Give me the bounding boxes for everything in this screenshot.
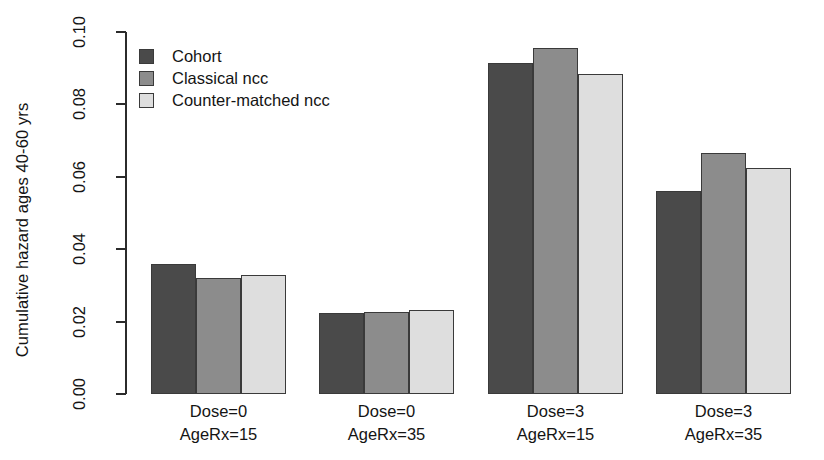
y-axis-tick	[116, 176, 126, 178]
y-axis-tick-label: 0.10	[70, 0, 88, 67]
y-axis-tick	[116, 393, 126, 395]
legend: Cohort Classical ncc Counter-matched ncc	[139, 45, 330, 111]
y-axis-tick	[116, 321, 126, 323]
y-axis-title: Cumulative hazard ages 40-60 yrs	[0, 0, 44, 460]
bar	[701, 153, 746, 394]
legend-item[interactable]: Classical ncc	[139, 67, 330, 89]
bar	[319, 313, 364, 394]
bar-chart: Cumulative hazard ages 40-60 yrs 0.000.0…	[0, 0, 824, 460]
legend-label: Classical ncc	[172, 69, 268, 88]
bar	[364, 312, 409, 394]
bar	[488, 63, 533, 394]
y-axis-tick-label: 0.00	[70, 359, 88, 429]
legend-label: Counter-matched ncc	[172, 91, 330, 110]
x-axis-group-label: Dose=3AgeRx=35	[629, 400, 819, 446]
group-label-line2: AgeRx=15	[124, 423, 314, 446]
group-label-line1: Dose=3	[695, 402, 752, 420]
legend-swatch-counter-matched-ncc	[139, 93, 154, 108]
group-label-line1: Dose=0	[358, 402, 415, 420]
bar	[196, 278, 241, 394]
legend-item[interactable]: Cohort	[139, 45, 330, 67]
x-axis-group-label: Dose=3AgeRx=15	[461, 400, 651, 446]
y-axis-tick	[116, 103, 126, 105]
bar	[533, 48, 578, 394]
y-axis-tick-label: 0.04	[70, 214, 88, 284]
y-axis-tick-label: 0.08	[70, 69, 88, 139]
y-axis-tick-label: 0.02	[70, 287, 88, 357]
bar	[151, 264, 196, 394]
bar	[656, 191, 701, 394]
legend-swatch-classical-ncc	[139, 71, 154, 86]
y-axis-tick	[116, 31, 126, 33]
legend-label: Cohort	[172, 47, 222, 66]
group-label-line1: Dose=3	[527, 402, 584, 420]
bar	[409, 310, 454, 394]
legend-swatch-cohort	[139, 49, 154, 64]
x-axis-group-label: Dose=0AgeRx=15	[124, 400, 314, 446]
legend-item[interactable]: Counter-matched ncc	[139, 89, 330, 111]
bar	[578, 74, 623, 394]
group-label-line1: Dose=0	[190, 402, 247, 420]
group-label-line2: AgeRx=35	[629, 423, 819, 446]
group-label-line2: AgeRx=35	[292, 423, 482, 446]
bar	[241, 275, 286, 394]
group-label-line2: AgeRx=15	[461, 423, 651, 446]
y-axis-tick-label: 0.06	[70, 142, 88, 212]
x-axis-group-label: Dose=0AgeRx=35	[292, 400, 482, 446]
y-axis-tick	[116, 248, 126, 250]
bar	[746, 168, 791, 394]
